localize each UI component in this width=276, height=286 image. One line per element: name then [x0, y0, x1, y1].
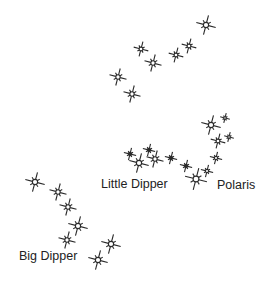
star-icon	[201, 165, 213, 177]
star-map	[0, 0, 276, 286]
star-icon	[224, 132, 234, 142]
star-icon	[59, 232, 76, 249]
star-icon	[211, 134, 226, 149]
star-icon	[124, 148, 136, 160]
label-little-dipper: Little Dipper	[101, 178, 168, 191]
star-icon	[50, 184, 67, 201]
star-icon	[169, 48, 184, 63]
label-polaris: Polaris	[217, 179, 255, 192]
star-icon	[147, 151, 164, 168]
star-icon	[68, 216, 87, 235]
star-icon	[210, 152, 222, 164]
star-icon	[88, 250, 107, 269]
star-icon	[134, 42, 149, 57]
star-icon	[220, 113, 230, 123]
star-icon	[110, 69, 127, 86]
star-group-top-cluster	[110, 15, 216, 102]
star-icon	[124, 86, 141, 103]
label-big-dipper: Big Dipper	[19, 250, 77, 263]
star-icon	[60, 199, 77, 216]
star-icon	[143, 144, 155, 156]
star-icon	[25, 172, 44, 191]
star-icon	[201, 115, 220, 134]
star-group-polaris-arc	[201, 113, 234, 164]
star-icon	[129, 153, 148, 172]
star-icon	[145, 55, 162, 72]
star-icon	[101, 234, 120, 253]
star-icon	[182, 39, 197, 54]
star-icon	[165, 152, 177, 164]
star-icon	[196, 15, 215, 34]
star-icon	[185, 168, 207, 190]
star-icon	[180, 160, 192, 172]
